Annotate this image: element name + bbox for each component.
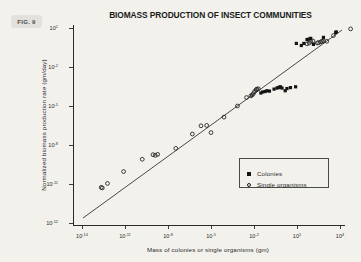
- x-tick-label: 104: [336, 232, 345, 239]
- y-tick-label: 10-8: [48, 141, 58, 148]
- legend: Colonies Single organisms: [239, 158, 329, 188]
- x-axis-ticks: [82, 225, 340, 229]
- data-point-colony: [285, 87, 288, 90]
- data-point-colony: [322, 36, 325, 39]
- x-tick-label-group: 10-14 10-11 10-8 10-5 10-2 101 104: [76, 232, 345, 239]
- data-point-colony: [295, 42, 298, 45]
- legend-item-single-organisms: Single organisms: [247, 175, 307, 193]
- data-point-single-organism: [106, 182, 110, 186]
- data-point-single-organism: [122, 170, 126, 174]
- data-point-colony: [294, 85, 297, 88]
- data-point-colony: [280, 86, 283, 89]
- data-point-colony: [335, 30, 338, 33]
- y-axis-ticks: [69, 28, 73, 223]
- data-point-single-organism: [199, 124, 203, 128]
- scatter-plot-svg: 101 10-2 10-5 10-8 10-11 10-12 10-14 10-…: [0, 0, 361, 262]
- data-point-colony: [289, 86, 292, 89]
- data-point-colony: [309, 37, 312, 40]
- figure-root: FIG. 9 BIOMASS PRODUCTION OF INSECT COMM…: [0, 0, 361, 262]
- data-point-colony: [268, 90, 271, 93]
- y-tick-label: 101: [50, 24, 58, 31]
- open-circle-icon: [247, 175, 257, 193]
- data-point-single-organism: [153, 153, 157, 157]
- y-axis-title: Normalized biomass production rate (gm/d…: [40, 59, 47, 191]
- data-point-colony: [272, 87, 275, 90]
- data-point-single-organism: [209, 131, 213, 135]
- data-point-single-organism: [140, 157, 144, 161]
- x-tick-label: 10-11: [119, 232, 131, 239]
- y-tick-label-group: 101 10-2 10-5 10-8 10-11 10-12: [46, 24, 58, 226]
- x-tick-label: 10-8: [163, 232, 173, 239]
- y-tick-label: 10-5: [48, 102, 58, 109]
- data-point-single-organism: [174, 146, 178, 150]
- data-point-colony: [312, 43, 315, 46]
- x-tick-label: 10-5: [206, 232, 216, 239]
- x-tick-label: 101: [293, 232, 301, 239]
- x-tick-label: 10-14: [76, 232, 89, 239]
- legend-label-single-organisms: Single organisms: [257, 181, 307, 188]
- plot-area: 101 10-2 10-5 10-8 10-11 10-12 10-14 10-…: [0, 0, 361, 262]
- data-point-single-organism: [190, 132, 194, 136]
- data-point-single-organism: [349, 27, 353, 31]
- y-tick-label: 10-11: [46, 180, 58, 187]
- y-tick-label: 10-2: [48, 63, 58, 70]
- data-point-single-organism: [156, 152, 160, 156]
- y-tick-label: 10-12: [46, 219, 58, 226]
- x-tick-label: 10-2: [249, 232, 259, 239]
- data-point-colony: [302, 42, 305, 45]
- data-point-single-organism: [205, 124, 209, 128]
- x-axis-title: Mass of colonies or single organisms (gm…: [147, 246, 269, 253]
